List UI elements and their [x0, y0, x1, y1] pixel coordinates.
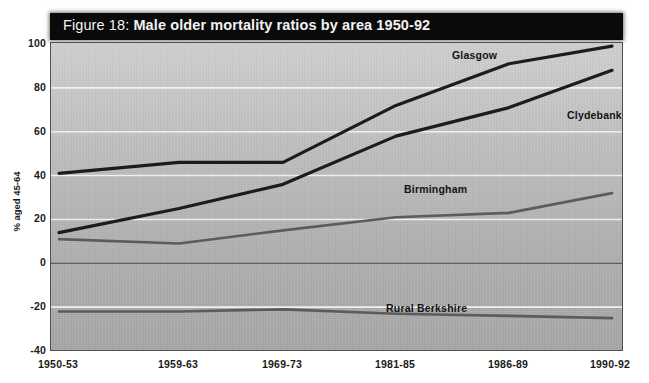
y-tick-label: 20 [2, 212, 46, 224]
figure-number-label: Figure 18: [63, 17, 133, 33]
y-tick-label: 80 [2, 81, 46, 93]
plot-area: GlasgowClydebankBirminghamRural Berkshir… [50, 42, 623, 351]
y-tick-label: 0 [2, 256, 46, 268]
y-tick-label: 100 [2, 37, 46, 49]
x-tick-label: 1950-53 [38, 358, 78, 370]
series-line-birmingham [59, 193, 612, 243]
series-line-glasgow [59, 46, 612, 173]
x-axis-tick-labels: 1950-531959-631969-731981-851986-891990-… [0, 358, 649, 376]
y-tick-label: 40 [2, 169, 46, 181]
y-axis-tick-labels: 100806040200-20-40 [0, 0, 46, 383]
series-label-rural-berkshire: Rural Berkshire [386, 302, 467, 314]
y-tick-label: -20 [2, 300, 46, 312]
x-tick-label: 1959-63 [158, 358, 198, 370]
x-tick-label: 1990-92 [590, 358, 630, 370]
figure-title-main: Male older mortality ratios by area 1950… [133, 17, 430, 33]
series-line-rural-berkshire [59, 309, 612, 318]
y-tick-label: 60 [2, 125, 46, 137]
x-tick-label: 1986-89 [488, 358, 528, 370]
x-tick-label: 1981-85 [375, 358, 415, 370]
y-tick-label: -40 [2, 344, 46, 356]
series-label-glasgow: Glasgow [452, 49, 497, 61]
gridlines [51, 44, 623, 351]
x-tick-label: 1969-73 [262, 358, 302, 370]
series-label-clydebank: Clydebank [567, 109, 622, 121]
series-lines [59, 46, 612, 318]
figure-title-bar: Figure 18: Male older mortality ratios b… [50, 13, 623, 40]
chart-canvas [51, 43, 623, 351]
figure-title-text: Figure 18: Male older mortality ratios b… [63, 17, 430, 33]
figure-container: Figure 18: Male older mortality ratios b… [0, 0, 649, 383]
series-label-birmingham: Birmingham [404, 183, 467, 195]
